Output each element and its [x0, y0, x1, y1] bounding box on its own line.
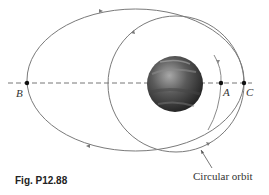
label-A: A: [222, 86, 230, 98]
orbit-diagram: B A C Circular orbit: [0, 0, 269, 195]
point-A: [219, 81, 223, 85]
label-C: C: [246, 86, 254, 98]
point-B: [25, 81, 29, 85]
direction-arrow-icon: [216, 60, 220, 64]
inner-trajectory-arc: [208, 55, 221, 130]
direction-arrow-icon: [206, 142, 210, 146]
figure-caption: Fig. P12.88: [15, 175, 67, 186]
circular-orbit-label: Circular orbit: [193, 170, 253, 182]
elliptical-orbit: [27, 9, 244, 151]
planet: [147, 56, 203, 112]
direction-arrow-icon: [86, 144, 90, 148]
label-B: B: [16, 87, 23, 99]
point-C: [242, 81, 246, 85]
pointer-arrow-icon: [201, 150, 204, 154]
